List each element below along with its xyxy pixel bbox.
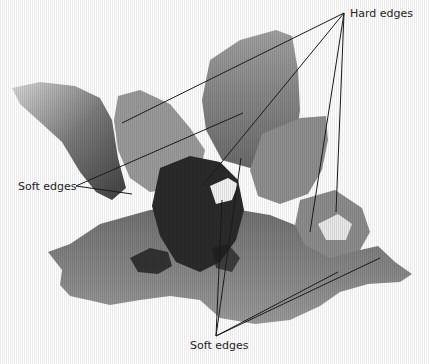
label-soft-edges-bottom: Soft edges <box>190 340 248 351</box>
leader-hard-4 <box>336 13 344 212</box>
label-hard-edges: Hard edges <box>350 8 413 19</box>
label-soft-edges-left: Soft edges <box>18 181 76 192</box>
